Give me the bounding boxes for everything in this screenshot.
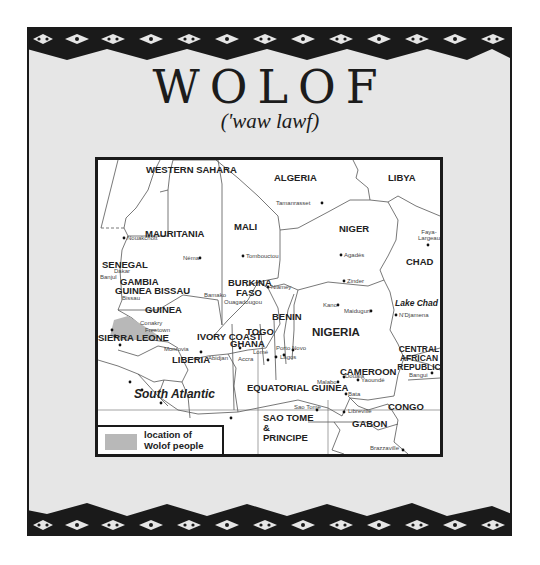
city-niamey: Niamey xyxy=(271,284,291,290)
ocean-south-atlantic: South Atlantic xyxy=(134,387,215,401)
country-sierra-leone: SIERRA LEONE xyxy=(98,333,169,343)
city-brazzaville: Brazzaville xyxy=(370,445,399,451)
city-sao-tome: Sao Tome xyxy=(294,404,321,410)
pronunciation: ('waw lawf) xyxy=(0,111,540,132)
city-nema: Néma xyxy=(183,255,199,261)
lake-chad: Lake Chad xyxy=(395,298,438,308)
city-tombouctou: Tombouctou xyxy=(246,253,279,259)
country-sao-tome-principe: SAO TOME & PRINCIPE xyxy=(263,413,317,443)
country-guinea: GUINEA xyxy=(145,305,182,315)
country-liberia: LIBERIA xyxy=(172,355,210,365)
city-conakry: Conakry xyxy=(140,320,162,326)
city-agades: Agadès xyxy=(344,252,364,258)
city-tamanrasset: Tamanrasset xyxy=(276,200,310,206)
country-niger: NIGER xyxy=(339,224,369,234)
city-bata: Bata xyxy=(348,391,360,397)
city-maiduguri: Maiduguri xyxy=(344,308,370,314)
legend-label: location of Wolof people xyxy=(144,430,203,452)
city-freetown: Freetown xyxy=(145,327,170,333)
country-central-african-republic: CENTRAL AFRICAN REPUBLIC xyxy=(396,345,442,372)
country-libya: LIBYA xyxy=(388,173,416,183)
country-ivory-coast: IVORY COAST xyxy=(197,332,233,342)
country-ghana: GHANA xyxy=(230,339,265,349)
city-monrovia: Monrovia xyxy=(164,346,189,352)
city-accra: Accra xyxy=(238,356,253,362)
decorative-border-bottom xyxy=(27,500,512,536)
city-libreville: Libreville xyxy=(348,408,372,414)
country-burkina-faso: BURKINA FASO xyxy=(228,278,270,298)
city-kano: Kano xyxy=(323,302,337,308)
city-yaounde: Yaoundé xyxy=(361,377,385,383)
country-mali: MALI xyxy=(234,222,257,232)
city-lagos: Lagos xyxy=(280,354,296,360)
country-benin: BENIN xyxy=(272,312,302,322)
country-congo: CONGO xyxy=(388,402,424,412)
city-porto-novo: Porto Novo xyxy=(276,345,306,351)
legend-label-line2: Wolof people xyxy=(144,441,203,452)
country-gabon: GABON xyxy=(352,419,387,429)
city-ndjamena: N'Djamena xyxy=(399,312,429,318)
map-legend: location of Wolof people xyxy=(98,425,224,457)
city-abidjan: Abidjan xyxy=(208,355,228,361)
page-title: WOLOF xyxy=(0,64,540,110)
city-zinder: Zinder xyxy=(347,278,364,284)
city-ouagadougou: Ouagadougou xyxy=(224,299,262,305)
city-banjul: Banjul xyxy=(100,274,117,280)
country-chad: CHAD xyxy=(406,257,433,267)
city-malabo: Malabo xyxy=(317,379,337,385)
country-western-sahara: WESTERN SAHARA xyxy=(146,165,237,175)
city-faya-largeau: Faya-Largeau xyxy=(412,229,443,241)
city-bamako: Bamako xyxy=(204,292,226,298)
map-frame: WESTERN SAHARA ALGERIA LIBYA MAURITANIA … xyxy=(95,157,443,457)
city-bissau: Bissau xyxy=(122,295,140,301)
city-nouakchott: Nouakchott xyxy=(127,235,157,241)
country-nigeria: NIGERIA xyxy=(312,326,360,338)
city-bangui: Bangui xyxy=(409,372,428,378)
legend-swatch-wolof xyxy=(105,434,137,450)
country-togo: TOGO xyxy=(246,327,274,337)
decorative-border-top xyxy=(27,27,512,63)
country-algeria: ALGERIA xyxy=(274,173,317,183)
city-lome: Lomé xyxy=(253,349,268,355)
